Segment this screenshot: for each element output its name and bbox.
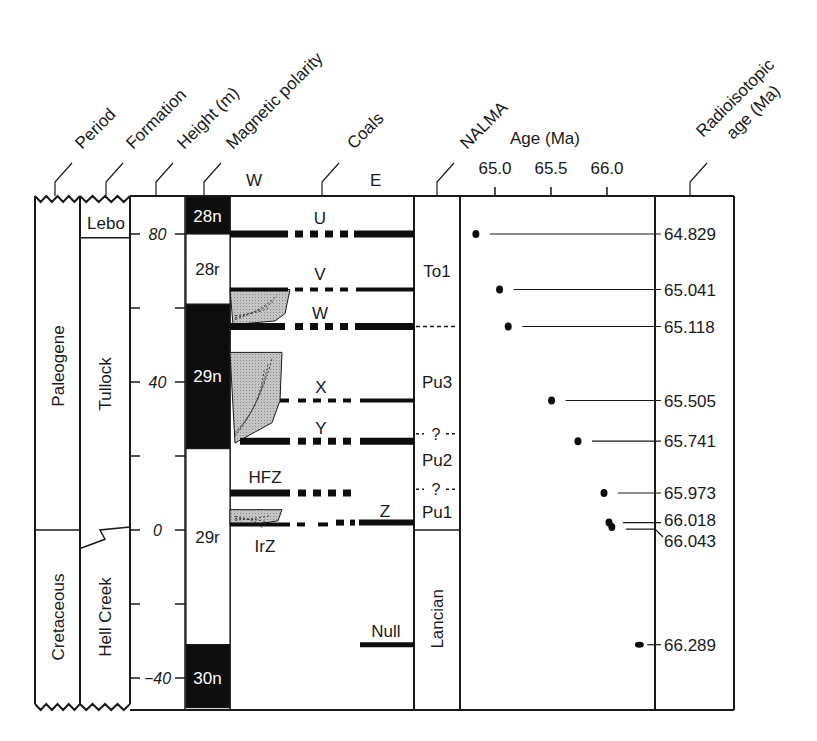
nalma-uncertain-mark: ? [432,481,441,498]
height-tick-label: 0 [153,522,162,539]
coal-label: U [314,209,326,228]
coals-column: UVWXYHFZZIrZNull [230,209,414,645]
radioisotopic-age-label: 66.043 [664,532,716,551]
age-data-point [635,642,644,648]
coal-label: W [312,304,328,323]
age-data-point [496,286,503,294]
period-top-break [35,196,80,202]
formation-boundary-hellcreek [80,527,130,548]
coals-west-label: W [246,171,262,190]
stratigraphic-column-diagram: Period Formation Height (m) Magnetic pol… [0,0,817,741]
formation-bottom-break [80,704,130,710]
period-column: PaleogeneCretaceous [35,325,80,660]
age-data-point [574,437,581,445]
chron-label: 30n [193,669,221,688]
polarity-header-leader [204,163,221,196]
nalma-uncertain-mark: ? [432,426,441,443]
chron-label: 29n [193,367,221,386]
radioisotopic-age-label: 65.041 [664,281,716,300]
radioisotopic-age-label: 66.018 [664,511,716,530]
column-headers: Period Formation Height (m) Magnetic pol… [55,48,784,196]
height-tick-label: −40 [144,670,171,687]
formation-header-leader [106,163,123,196]
radioisotopic-age-label: 65.118 [664,318,715,337]
radioisotopic-age-label: 64.829 [664,225,716,244]
height-tick-label: 80 [149,226,167,243]
age-axis-tick-label: 65.0 [478,159,511,178]
coal-label: HFZ [248,468,281,487]
age-data-point [472,230,479,238]
coal-label: Y [315,419,326,438]
period-header: Period [71,105,119,153]
coals-header-leader [322,163,339,196]
age-plot: 65.065.566.064.82965.04165.11865.50565.7… [472,159,716,655]
formation-label: Tullock [96,357,115,411]
age-data-point [548,397,555,405]
coal-label: Z [380,502,390,521]
age-axis-tick-label: 66.0 [590,159,623,178]
age-leader-line [626,529,663,537]
radioisotopic-age-label: 65.505 [664,392,716,411]
period-header-leader [55,163,72,196]
chron-label: 28r [195,260,220,279]
age-data-point [505,323,512,331]
nalma-label: Pu2 [422,451,452,470]
coal-label: Null [371,622,400,641]
height-axis: 80400−40 [130,226,185,687]
period-bottom-break [35,704,80,710]
nalma-header: NALMA [456,98,511,153]
coals-east-label: E [370,171,381,190]
radioisotopic-header-leader [690,163,707,196]
age-axis-tick-label: 65.5 [534,159,567,178]
nalma-header-leader [437,163,454,196]
nalma-label: To1 [423,262,450,281]
magnetic-polarity-column: 28n28r29n29r30n [186,197,230,708]
chron-label: 29r [195,528,220,547]
period-label: Paleogene [49,325,68,406]
nalma-label: Lancian [428,589,447,649]
channel-sandstone-v [230,290,290,325]
age-data-point [600,489,607,497]
formation-label: Lebo [87,214,125,233]
coal-label: IrZ [255,537,276,556]
nalma-label: Pu1 [422,503,452,522]
radioisotopic-age-label: 66.289 [664,636,716,655]
chron-label: 28n [193,207,221,226]
radioisotopic-age-label: 65.973 [664,484,716,503]
nalma-column: To1Pu3?Pu2?Pu1Lancian [414,262,460,649]
coals-header: Coals [343,109,387,153]
formation-column: LeboTullockHell Creek [80,214,130,657]
height-header-leader [156,163,173,196]
channel-sandstone-x [230,352,282,443]
coal-label: V [314,265,326,284]
radioisotopic-age-label: 65.741 [664,432,716,451]
formation-top-break [80,196,130,202]
height-tick-label: 40 [149,374,167,391]
formation-label: Hell Creek [96,577,115,657]
age-data-point [608,523,615,531]
coal-label: X [315,378,326,397]
age-axis-title: Age (Ma) [510,129,580,148]
period-label: Cretaceous [49,574,68,661]
nalma-label: Pu3 [422,373,452,392]
